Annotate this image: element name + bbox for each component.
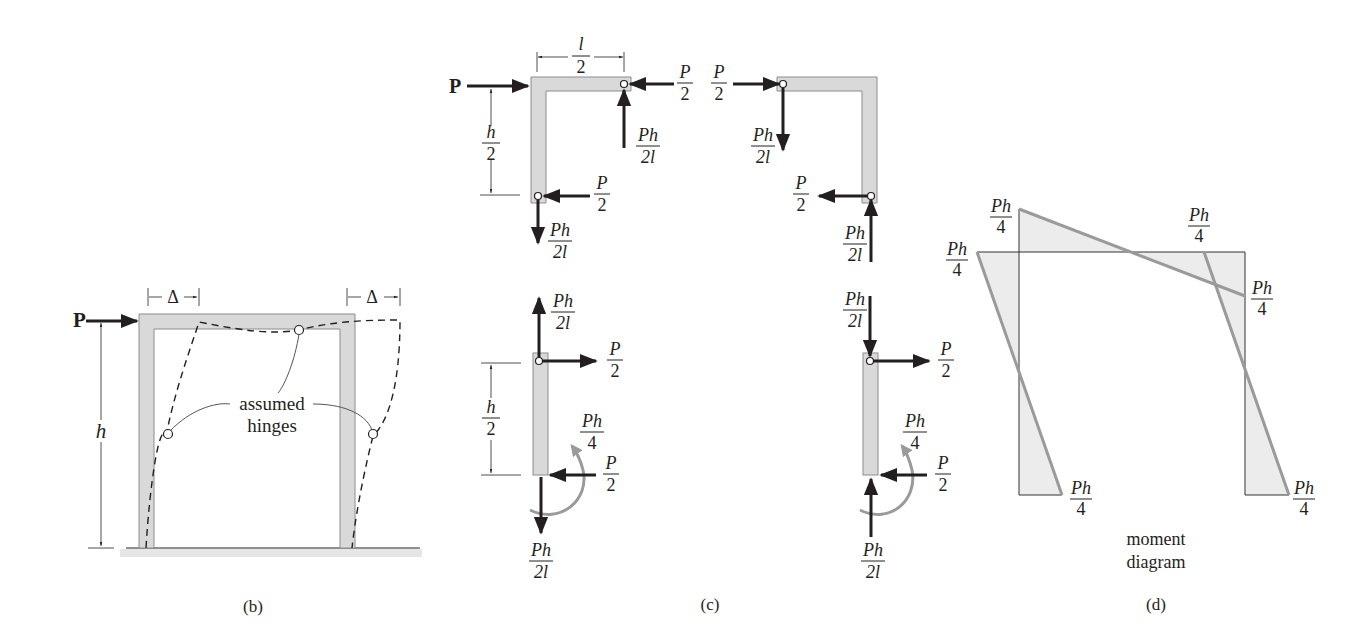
load-label-p: P [73, 308, 86, 332]
frac-num: Ph [844, 223, 865, 243]
panel-d-moment-diagram: Ph 4 Ph 4 Ph 4 Ph 4 Ph 4 Ph 4 mo [946, 196, 1315, 614]
height-den: 2 [487, 144, 496, 164]
hinge [535, 193, 542, 200]
frac-den: 2l [756, 147, 770, 167]
frac-num: P [795, 173, 807, 193]
frac-num: P [609, 339, 621, 359]
frac-den: 2 [942, 361, 951, 381]
caption-c: (c) [701, 595, 720, 614]
width-num: l [578, 34, 583, 54]
frac-num: Ph [530, 540, 551, 560]
moment-label: Ph 4 [1251, 278, 1273, 319]
frac-den: 2 [797, 195, 806, 215]
member-bottom-left [533, 353, 548, 475]
leader-beam-hinge [278, 334, 299, 393]
frac-num: P [713, 62, 725, 82]
moment-label: Ph 4 [1188, 205, 1210, 246]
hinge-left-column [164, 430, 173, 439]
hinge-beam [295, 326, 304, 335]
frac-den: 4 [588, 433, 597, 453]
frac-num: Ph [990, 196, 1011, 216]
frac-den: 2l [534, 562, 548, 582]
figure-canvas: assumed hinges P h Δ Δ (b) P [0, 0, 1351, 638]
member-top-right [777, 77, 877, 203]
frac-num: Ph [946, 239, 967, 259]
frac-num: P [679, 62, 691, 82]
frac-num: Ph [552, 291, 573, 311]
frac-num: Ph [1188, 205, 1209, 225]
width-den: 2 [577, 57, 586, 77]
caption-d: (d) [1146, 595, 1166, 614]
frac-den: 2l [866, 562, 880, 582]
hinge [867, 358, 874, 365]
frac-den: 4 [1300, 499, 1309, 519]
frac-den: 2l [848, 311, 862, 331]
fbd-bottom-right: Ph 2l P 2 Ph 4 P 2 Ph 2l [843, 289, 954, 582]
panel-b-portal-frame: assumed hinges P h Δ Δ (b) [73, 287, 422, 616]
frac-den: 4 [997, 217, 1006, 237]
moment-diagram-title-line1: moment [1127, 529, 1186, 549]
frac-num: Ph [637, 125, 658, 145]
fbd-top-right: P 2 Ph 2l P 2 Ph 2l [711, 62, 877, 265]
frac-num: Ph [1293, 478, 1314, 498]
height-label-h: h [96, 419, 107, 443]
frac-num: Ph [844, 289, 865, 309]
hinge-right-column [369, 430, 378, 439]
panel-c-free-body-diagrams: P l 2 h 2 P 2 Ph 2l [449, 34, 954, 614]
frac-den: 2l [641, 147, 655, 167]
moment-label: Ph 4 [1293, 478, 1315, 519]
hinge [536, 358, 543, 365]
member-top-left [531, 77, 631, 203]
frac-den: 4 [1077, 499, 1086, 519]
frac-den: 2l [556, 313, 570, 333]
frac-num: Ph [862, 540, 883, 560]
moment-diagram-title-line2: diagram [1127, 552, 1186, 572]
hinge [621, 81, 628, 88]
frac-num: P [940, 339, 952, 359]
load-label-p: P [449, 75, 461, 97]
frac-den: 2 [939, 475, 948, 495]
frac-num: P [596, 173, 608, 193]
fbd-bottom-left: Ph 2l P 2 h 2 Ph 4 P 2 Ph [481, 291, 623, 582]
frac-den: 2l [848, 245, 862, 265]
frac-num: P [937, 453, 949, 473]
frac-den: 2 [611, 361, 620, 381]
height-num: h [487, 397, 496, 417]
frac-den: 4 [911, 433, 920, 453]
frac-num: Ph [1251, 278, 1272, 298]
hinge [868, 193, 875, 200]
frac-den: 2 [598, 195, 607, 215]
frac-den: 2 [715, 84, 724, 104]
ground-hatch [120, 549, 422, 557]
frac-num: Ph [752, 125, 773, 145]
annotation-assumed: assumed [239, 393, 305, 414]
frac-den: 2l [553, 242, 567, 262]
fbd-top-left: P l 2 h 2 P 2 Ph 2l [449, 34, 693, 262]
sway-label-right: Δ [366, 287, 378, 307]
height-num: h [487, 122, 496, 142]
frac-num: P [605, 453, 617, 473]
caption-b: (b) [243, 597, 263, 616]
frac-den: 4 [1195, 226, 1204, 246]
leader-left-hinge [170, 404, 230, 431]
sway-label-left: Δ [167, 287, 179, 307]
hinge [780, 81, 787, 88]
member-bottom-right [863, 353, 878, 475]
annotation-hinges: hinges [247, 415, 297, 436]
height-den: 2 [487, 419, 496, 439]
moment-label: Ph 4 [990, 196, 1012, 237]
frac-den: 2 [607, 475, 616, 495]
moment-label: Ph 4 [946, 239, 968, 280]
frac-num: Ph [549, 220, 570, 240]
frac-num: Ph [904, 411, 925, 431]
moment-label: Ph 4 [1070, 478, 1092, 519]
frac-den: 4 [953, 260, 962, 280]
frac-den: 2 [681, 84, 690, 104]
frac-num: Ph [1070, 478, 1091, 498]
frac-den: 4 [1258, 299, 1267, 319]
frac-num: Ph [581, 411, 602, 431]
